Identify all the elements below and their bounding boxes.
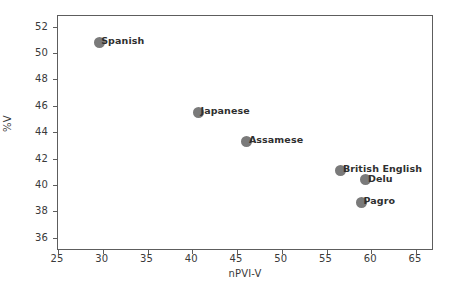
data-point-label: Pagro bbox=[363, 195, 395, 206]
y-axis-tick bbox=[53, 159, 58, 160]
x-axis-tick-label: 60 bbox=[364, 253, 377, 264]
x-axis-tick-label: 55 bbox=[319, 253, 332, 264]
x-axis-tick-label: 35 bbox=[140, 253, 153, 264]
data-point-label: Japanese bbox=[201, 105, 250, 116]
y-axis-tick-label: 42 bbox=[28, 152, 48, 163]
y-axis-tick-label: 48 bbox=[28, 73, 48, 84]
y-axis-tick bbox=[53, 238, 58, 239]
x-axis-tick-label: 40 bbox=[185, 253, 198, 264]
y-axis-tick bbox=[53, 211, 58, 212]
data-point-label: Spanish bbox=[101, 35, 144, 46]
data-point-label: Assamese bbox=[249, 134, 303, 145]
x-axis-tick-label: 50 bbox=[274, 253, 287, 264]
x-axis-tick-label: 25 bbox=[50, 253, 63, 264]
y-axis-tick bbox=[53, 106, 58, 107]
y-axis-tick-label: 40 bbox=[28, 178, 48, 189]
x-axis-tick-label: 45 bbox=[229, 253, 242, 264]
y-axis-tick-label: 44 bbox=[28, 126, 48, 137]
y-axis-tick bbox=[53, 79, 58, 80]
scatter-chart-figure: SpanishJapaneseAssameseBritish EnglishDe… bbox=[0, 0, 453, 293]
y-axis-tick-label: 52 bbox=[28, 20, 48, 31]
y-axis-label: %V bbox=[2, 115, 13, 132]
y-axis-tick-label: 36 bbox=[28, 231, 48, 242]
y-axis-tick-label: 50 bbox=[28, 46, 48, 57]
y-axis-tick-label: 46 bbox=[28, 99, 48, 110]
x-axis-tick-label: 30 bbox=[95, 253, 108, 264]
x-axis-tick-label: 65 bbox=[409, 253, 422, 264]
y-axis-tick bbox=[53, 132, 58, 133]
y-axis-tick bbox=[53, 53, 58, 54]
x-axis-label: nPVI-V bbox=[57, 268, 433, 279]
y-axis-tick bbox=[53, 27, 58, 28]
y-axis-tick-label: 38 bbox=[28, 205, 48, 216]
y-axis-tick bbox=[53, 185, 58, 186]
data-point-label: Delu bbox=[368, 172, 393, 183]
plot-area: SpanishJapaneseAssameseBritish EnglishDe… bbox=[57, 15, 433, 250]
